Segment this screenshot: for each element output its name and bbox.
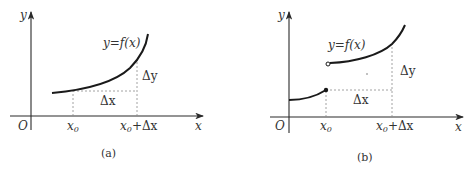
filled-point-icon [324, 88, 328, 92]
x0-label-a: x0 [67, 119, 79, 134]
lower-curve-b [289, 90, 326, 100]
delta-x-label-b: Δx [353, 93, 369, 107]
x0-label-b: x0 [320, 119, 332, 134]
curve-label-b: y=f(x) [327, 38, 366, 52]
delta-y-label-a: Δy [142, 69, 158, 83]
caption-b: (b) [357, 151, 373, 164]
x0-plus-dx-label-a: x0+Δx [120, 119, 158, 134]
x0-plus-dx-label-b: x0+Δx [376, 119, 414, 134]
open-point-icon [326, 62, 330, 66]
curve-label-a: y=f(x) [102, 36, 141, 50]
caption-a: (a) [101, 147, 116, 160]
stray-dot [366, 73, 367, 74]
delta-x-label-a: Δx [100, 94, 116, 108]
origin-label-b: O [275, 119, 285, 133]
figure-b: y O x y=f(x) Δx Δy x0 x0+Δx (b) [270, 8, 463, 164]
y-label-b: y [277, 8, 285, 22]
origin-label-a: O [18, 119, 28, 133]
derivative-diagram: y O x y=f(x) Δx Δy x0 x0+Δx (a) y O x y=… [0, 0, 470, 169]
delta-y-label-b: Δy [400, 64, 416, 78]
figure-a: y O x y=f(x) Δx Δy x0 x0+Δx (a) [10, 8, 203, 160]
x-label-b: x [455, 120, 462, 134]
x-label-a: x [195, 119, 202, 133]
y-label-a: y [19, 8, 27, 22]
